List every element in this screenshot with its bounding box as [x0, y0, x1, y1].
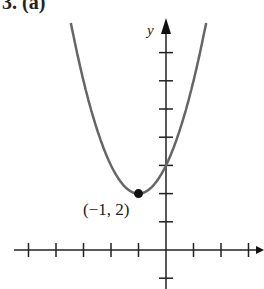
chart-plot	[0, 0, 264, 289]
x-axis-arrow-icon	[256, 246, 264, 254]
axes	[14, 30, 258, 289]
vertex-point	[134, 189, 143, 198]
parabola-curve	[71, 23, 206, 194]
y-axis-arrow-icon	[161, 18, 171, 34]
